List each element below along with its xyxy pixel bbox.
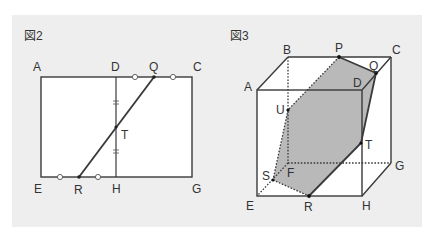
point-U [286,108,289,111]
equal-circle-mark [95,174,100,179]
label-H: H [362,199,371,213]
label-D: D [111,60,120,74]
figure-3-title: 図3 [230,29,249,43]
label-G: G [192,182,201,196]
label-C: C [193,60,202,74]
point-Q [152,75,156,79]
point-P [337,55,341,59]
label-C: C [392,43,401,57]
label-F: F [287,166,294,180]
label-T: T [121,128,129,142]
label-R: R [304,200,313,214]
equal-circle-mark [132,74,137,79]
label-P: P [335,41,343,55]
label-Q: Q [149,60,158,74]
point-T [114,125,117,128]
label-T: T [365,138,373,152]
label-G: G [395,159,404,173]
figure-2: 図2 A D Q C T E R H G [24,29,202,197]
label-R: R [74,183,83,197]
label-D: D [353,76,362,90]
label-Q: Q [369,59,378,73]
figure-2-title: 図2 [24,29,43,43]
equal-circle-mark [57,174,62,179]
label-E: E [246,199,254,213]
point-R [77,175,81,179]
point-T [359,141,362,144]
geometry-diagram: 図2 A D Q C T E R H G [0,0,431,239]
point-S [271,178,274,181]
label-A: A [244,80,252,94]
label-H: H [112,182,121,196]
label-E: E [34,182,42,196]
point-R [307,194,311,198]
label-U: U [276,103,285,117]
label-A: A [33,60,41,74]
figure-3: 図3 [230,29,404,214]
label-S: S [262,169,270,183]
label-B: B [283,43,291,57]
equal-circle-mark [170,74,175,79]
